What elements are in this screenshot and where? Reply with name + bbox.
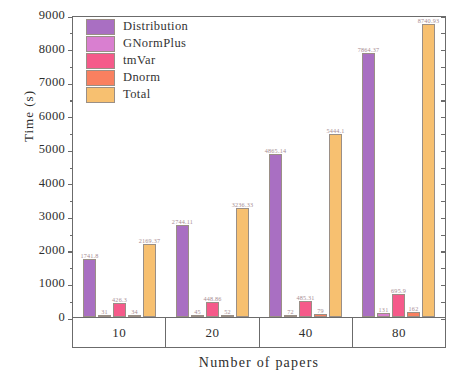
legend-swatch [86,87,115,103]
bar-value-label: 34 [131,308,138,315]
bar-value-label: 2744.11 [172,218,193,225]
bar-dnorm: 79 [314,314,327,317]
x-axis-title: Number of papers [72,355,446,371]
bar-value-label: 485.31 [296,294,314,301]
bar-chart-figure: Time (s) 0100020003000400050006000700080… [0,0,449,385]
bar-value-label: 2169.37 [139,237,161,244]
bar-gnormplus: 31 [98,315,111,317]
bar-value-label: 695.9 [391,287,406,294]
bar-distribution: 4865.14 [269,154,282,317]
y-tick-label: 0 [58,310,65,325]
legend-swatch [86,36,115,52]
bar-total: 3236.33 [236,208,249,317]
legend-label: Total [123,87,151,102]
bar-total: 8740.93 [422,24,435,317]
x-axis-category-40: 40 [260,318,353,347]
bar-tmvar: 426.3 [113,303,126,317]
y-tick-label: 2000 [39,243,65,258]
bar-value-label: 5444.1 [326,127,344,134]
bar-value-label: 1741.8 [80,252,98,259]
legend-label: GNormPlus [123,36,186,51]
y-tick-label: 1000 [39,276,65,291]
bar-group: 7864.37131695.91628740.93 [352,17,445,317]
bar-distribution: 1741.8 [83,259,96,317]
bar-total: 5444.1 [329,134,342,317]
legend-label: Distribution [123,19,188,34]
bar-value-label: 4865.14 [265,147,287,154]
y-tick-label: 4000 [39,176,65,191]
bar-value-label: 426.3 [112,296,127,303]
bar-gnormplus: 45 [191,315,204,317]
y-tick-label: 9000 [39,8,65,23]
bar-dnorm: 52 [221,315,234,317]
x-axis-category-20: 20 [166,318,259,347]
bar-group: 4865.1472485.31795444.1 [259,17,352,317]
bar-value-label: 72 [287,308,294,315]
bar-value-label: 8740.93 [418,17,440,24]
x-axis-category-row: 10204080 [72,318,446,348]
y-tick-label: 8000 [39,42,65,57]
legend-swatch [86,53,115,69]
bar-tmvar: 485.31 [299,301,312,317]
x-axis-category-80: 80 [353,318,445,347]
bar-tmvar: 695.9 [392,294,405,317]
y-axis-title: Time (s) [21,61,37,171]
x-axis-category-10: 10 [73,318,166,347]
legend-label: Dnorm [123,70,160,85]
bar-value-label: 31 [101,308,108,315]
bar-distribution: 2744.11 [176,225,189,317]
y-tick-label: 6000 [39,109,65,124]
bar-gnormplus: 72 [284,315,297,317]
legend-swatch [86,19,115,35]
bar-value-label: 162 [409,305,419,312]
bar-dnorm: 162 [407,312,420,317]
y-tick-label: 7000 [39,75,65,90]
bar-value-label: 3236.33 [232,201,254,208]
y-tick-label: 5000 [39,142,65,157]
legend-label: tmVar [123,53,156,68]
chart-legend: DistributionGNormPlustmVarDnormTotal [86,18,188,103]
bar-tmvar: 448.86 [206,302,219,317]
bar-gnormplus: 131 [377,313,390,317]
legend-item: Dnorm [86,69,188,86]
bar-value-label: 79 [317,307,324,314]
bar-distribution: 7864.37 [362,53,375,317]
bar-value-label: 52 [224,308,231,315]
bar-value-label: 131 [379,306,389,313]
bar-value-label: 45 [194,308,201,315]
legend-item: tmVar [86,52,188,69]
legend-item: GNormPlus [86,35,188,52]
bar-total: 2169.37 [143,244,156,317]
legend-item: Total [86,86,188,103]
bar-value-label: 448.86 [203,295,221,302]
y-tick-label: 3000 [39,209,65,224]
legend-item: Distribution [86,18,188,35]
legend-swatch [86,70,115,86]
bar-value-label: 7864.37 [358,46,380,53]
bar-dnorm: 34 [128,315,141,317]
